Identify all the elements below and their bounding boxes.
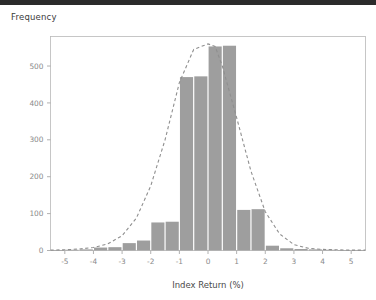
histogram-bar <box>295 249 308 250</box>
histogram-bar <box>223 46 236 251</box>
chart-svg: -5-4-3-2-1012345 0100200300400500 Index … <box>0 0 376 300</box>
histogram-bar <box>252 209 265 250</box>
plot-frame <box>51 37 366 251</box>
histogram-bar <box>194 76 207 250</box>
y-axis-ticks: 0100200300400500 <box>29 62 50 255</box>
x-axis-ticks: -5-4-3-2-1012345 <box>61 251 354 266</box>
histogram-bar <box>108 247 121 250</box>
x-axis-title: Index Return (%) <box>172 280 244 290</box>
x-tick-label: -5 <box>61 257 69 266</box>
histogram-bar <box>137 241 150 251</box>
x-tick-label: 2 <box>263 257 268 266</box>
normal-fit-curve <box>51 44 366 250</box>
histogram-bar <box>180 77 193 250</box>
x-tick-label: 4 <box>320 257 325 266</box>
x-tick-label: 5 <box>349 257 354 266</box>
histogram-chart: -5-4-3-2-1012345 0100200300400500 Index … <box>0 0 376 300</box>
x-tick-label: 0 <box>206 257 211 266</box>
y-tick-label: 200 <box>29 172 43 181</box>
y-tick-label: 300 <box>29 135 43 144</box>
x-tick-label: -2 <box>147 257 154 266</box>
y-tick-label: 500 <box>29 62 43 71</box>
histogram-bar <box>166 222 179 251</box>
histogram-bar <box>65 250 78 251</box>
y-tick-label: 100 <box>29 209 43 218</box>
x-tick-label: 3 <box>292 257 297 266</box>
histogram-bar <box>280 248 293 250</box>
x-tick-label: -3 <box>118 257 126 266</box>
histogram-bar <box>151 222 164 250</box>
histogram-bar <box>123 243 136 250</box>
x-tick-label: -4 <box>90 257 98 266</box>
histogram-bar <box>94 248 107 251</box>
histogram-bar <box>266 246 279 251</box>
histogram-bar <box>209 46 222 250</box>
histogram-bar <box>80 249 93 250</box>
y-tick-label: 0 <box>39 246 44 255</box>
y-tick-label: 400 <box>29 99 43 108</box>
histogram-bar <box>237 210 250 251</box>
x-tick-label: -1 <box>176 257 184 266</box>
x-tick-label: 1 <box>234 257 239 266</box>
bars-group <box>51 46 365 251</box>
